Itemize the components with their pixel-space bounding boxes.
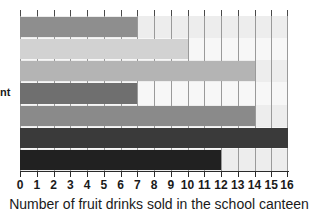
tick-mark: [54, 172, 55, 177]
tick-mark: [221, 10, 222, 16]
tick-mark: [255, 10, 256, 16]
tick-mark: [221, 172, 222, 177]
tick-mark: [287, 172, 288, 177]
tick-label: 13: [231, 178, 244, 192]
bar: [20, 61, 255, 81]
tick-mark: [104, 172, 105, 177]
tick-label: 8: [151, 178, 158, 192]
bar: [20, 106, 255, 126]
top-tick-marks: [20, 10, 288, 16]
tick-label: 3: [67, 178, 74, 192]
tick-mark: [171, 172, 172, 177]
x-axis-tick-labels: 012345678910111213141516: [20, 178, 288, 193]
bar: [20, 83, 137, 103]
tick-mark: [20, 10, 21, 16]
y-axis-label: nt: [0, 86, 18, 99]
bar: [20, 17, 137, 37]
tick-mark: [204, 172, 205, 177]
tick-label: 4: [84, 178, 91, 192]
tick-label: 1: [33, 178, 40, 192]
tick-mark: [171, 10, 172, 16]
tick-mark: [204, 10, 205, 16]
tick-label: 2: [50, 178, 57, 192]
tick-mark: [70, 10, 71, 16]
tick-mark: [37, 172, 38, 177]
tick-mark: [37, 10, 38, 16]
bar-chart: nt 012345678910111213141516 Number of fr…: [0, 0, 318, 221]
tick-label: 15: [265, 178, 278, 192]
tick-label: 5: [100, 178, 107, 192]
tick-label: 9: [167, 178, 174, 192]
tick-mark: [87, 10, 88, 16]
tick-label: 0: [17, 178, 24, 192]
bar: [20, 39, 188, 59]
bottom-tick-marks: [20, 172, 288, 177]
tick-label: 7: [134, 178, 141, 192]
tick-label: 11: [198, 178, 211, 192]
tick-label: 12: [214, 178, 227, 192]
tick-mark: [238, 172, 239, 177]
x-axis-caption: Number of fruit drinks sold in the schoo…: [0, 196, 318, 213]
tick-mark: [20, 172, 21, 177]
tick-label: 10: [181, 178, 194, 192]
tick-mark: [154, 172, 155, 177]
tick-mark: [287, 10, 288, 16]
tick-mark: [154, 10, 155, 16]
tick-label: 16: [280, 178, 293, 192]
tick-label: 14: [248, 178, 261, 192]
tick-mark: [121, 10, 122, 16]
tick-mark: [255, 172, 256, 177]
tick-mark: [104, 10, 105, 16]
plot-area: [20, 16, 288, 171]
tick-mark: [54, 10, 55, 16]
tick-mark: [238, 10, 239, 16]
tick-label: 6: [117, 178, 124, 192]
tick-mark: [87, 172, 88, 177]
tick-mark: [121, 172, 122, 177]
tick-mark: [188, 172, 189, 177]
tick-mark: [70, 172, 71, 177]
tick-mark: [188, 10, 189, 16]
tick-mark: [271, 10, 272, 16]
tick-mark: [271, 172, 272, 177]
tick-mark: [137, 10, 138, 16]
bar: [20, 150, 221, 170]
tick-mark: [137, 172, 138, 177]
bar: [20, 128, 288, 148]
